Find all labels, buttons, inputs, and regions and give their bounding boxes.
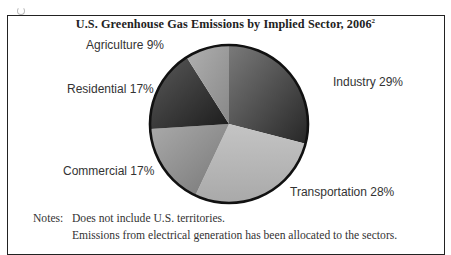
chart-notes: Notes: Does not include U.S. territories… [33,210,397,244]
label-commercial: Commercial 17% [63,164,154,178]
label-industry: Industry 29% [333,75,403,89]
label-transportation: Transportation 28% [290,185,394,199]
label-residential: Residential 17% [67,82,154,96]
note-line-1: Does not include U.S. territories. [72,210,225,227]
note-line-2: Emissions from electrical generation has… [72,227,397,244]
notes-heading: Notes: [33,210,72,227]
label-agriculture: Agriculture 9% [86,38,164,52]
